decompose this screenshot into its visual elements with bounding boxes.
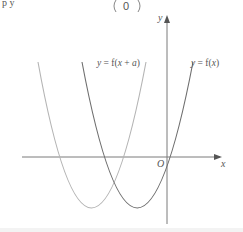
- y-axis-label: y: [157, 12, 163, 23]
- bottom-divider: [0, 228, 243, 232]
- label-f-x-plus-a: y = f(x + a): [96, 58, 140, 69]
- x-axis-label: x: [220, 158, 226, 169]
- column-vector-zero: 0: [114, 0, 140, 12]
- y-axis: y: [157, 12, 170, 224]
- y-axis-arrow-icon: [164, 15, 170, 23]
- curve-f-x-plus-a: [38, 62, 146, 208]
- cropped-text-fragment: p y: [2, 0, 15, 8]
- origin-label: O: [157, 158, 164, 169]
- label-f-x: y = f(x): [190, 58, 219, 69]
- graph-figure: p y 0 x y O y = f(x + a) y = f(x: [0, 0, 243, 232]
- vector-entry: 0: [123, 0, 129, 12]
- curve-f-x: [82, 62, 193, 208]
